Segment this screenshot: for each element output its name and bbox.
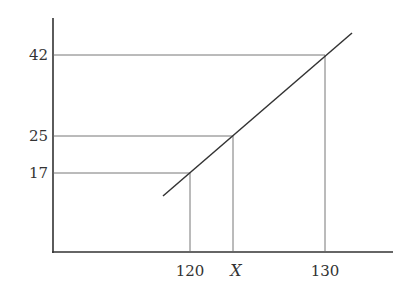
x-tick-130: 130 <box>311 262 340 280</box>
data-line <box>163 33 352 196</box>
x-tick-X: X <box>228 261 242 280</box>
line-chart: 42 25 17 120 X 130 <box>0 0 398 297</box>
y-tick-17: 17 <box>29 164 48 182</box>
y-tick-42: 42 <box>29 46 48 64</box>
y-tick-25: 25 <box>29 127 48 145</box>
x-tick-120: 120 <box>176 262 205 280</box>
